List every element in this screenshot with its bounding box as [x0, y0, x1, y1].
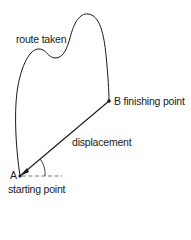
route-taken-label: route taken [16, 34, 66, 45]
displacement-label: displacement [72, 137, 131, 148]
point-b-dot [107, 99, 111, 103]
point-a-dot [18, 174, 21, 177]
angle-arc [40, 159, 45, 176]
point-a-letter: A [10, 170, 17, 181]
point-a-description: starting point [8, 184, 65, 195]
point-b-label: B finishing point [114, 96, 185, 107]
